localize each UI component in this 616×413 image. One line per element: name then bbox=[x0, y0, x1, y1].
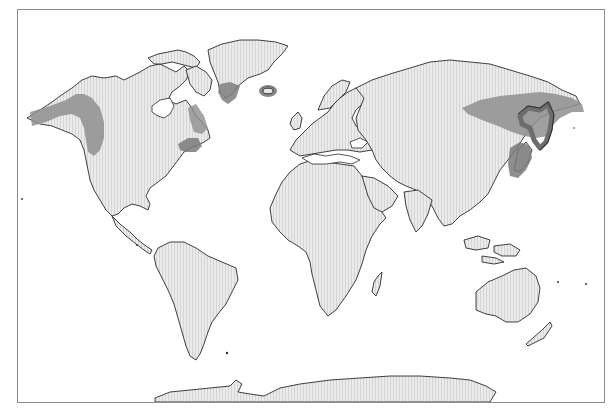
land-baffin-island bbox=[186, 66, 212, 96]
land-madagascar bbox=[372, 272, 382, 296]
island-dot bbox=[573, 127, 575, 129]
mediterranean-sea bbox=[302, 154, 360, 164]
land-australia bbox=[476, 268, 540, 322]
land-antarctica bbox=[155, 376, 496, 402]
land-north-america bbox=[27, 64, 210, 216]
land-south-america bbox=[154, 242, 238, 360]
land-central-america bbox=[112, 216, 152, 254]
island-dot bbox=[226, 352, 228, 354]
shaded-region-greenland-south bbox=[218, 82, 240, 104]
island-dot bbox=[136, 244, 138, 246]
shaded-region-japan-korea bbox=[508, 142, 532, 178]
island-dot bbox=[21, 198, 23, 200]
land-southeast-asia bbox=[464, 236, 520, 264]
land-british-isles bbox=[290, 112, 302, 130]
land-new-zealand bbox=[526, 322, 552, 346]
iceland-core bbox=[263, 88, 273, 94]
island-dot bbox=[557, 281, 559, 283]
island-dot bbox=[585, 283, 587, 285]
world-map bbox=[0, 0, 616, 413]
